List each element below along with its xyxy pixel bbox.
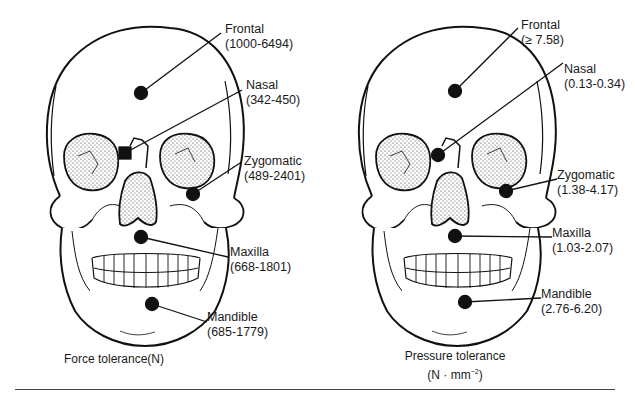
label-range: (342-450): [246, 93, 300, 108]
label-zygomatic-pressure: Zygomatic (1.38-4.17): [557, 168, 618, 198]
skull-diagrams: [0, 0, 635, 396]
skull-left: [47, 27, 244, 346]
label-name: Frontal: [225, 22, 293, 37]
label-name: Maxilla: [230, 245, 291, 260]
label-name: Mandible: [207, 310, 268, 325]
label-range: (685-1779): [207, 325, 268, 340]
label-range: (0.13-0.34): [564, 77, 625, 92]
caption-close: ): [479, 368, 483, 382]
label-range: (2.76-6.20): [541, 302, 602, 317]
label-range: (489-2401): [244, 169, 305, 184]
label-name: Zygomatic: [557, 168, 618, 183]
caption-line1: Pressure tolerance: [390, 349, 520, 364]
label-range: (1.03-2.07): [552, 241, 613, 256]
label-frontal-pressure: Frontal (≥ 7.58): [521, 18, 564, 48]
label-name: Frontal: [521, 18, 564, 33]
label-range: (1.38-4.17): [557, 183, 618, 198]
label-range: (668-1801): [230, 260, 291, 275]
label-name: Zygomatic: [244, 154, 305, 169]
label-range: (≥ 7.58): [521, 33, 564, 48]
caption-line2: (N · mm−2): [390, 364, 520, 383]
caption-pressure: Pressure tolerance (N · mm−2): [390, 349, 520, 383]
label-name: Nasal: [564, 62, 625, 77]
label-zygomatic-force: Zygomatic (489-2401): [244, 154, 305, 184]
label-nasal-force: Nasal (342-450): [246, 78, 300, 108]
caption-exponent: −2: [471, 368, 479, 375]
label-name: Maxilla: [552, 226, 613, 241]
caption-force: Force tolerance(N): [64, 352, 164, 367]
label-name: Mandible: [541, 287, 602, 302]
caption-unit: (N · mm: [427, 368, 470, 382]
label-frontal-force: Frontal (1000-6494): [225, 22, 293, 52]
label-mandible-force: Mandible (685-1779): [207, 310, 268, 340]
label-range: (1000-6494): [225, 37, 293, 52]
label-maxilla-force: Maxilla (668-1801): [230, 245, 291, 275]
label-nasal-pressure: Nasal (0.13-0.34): [564, 62, 625, 92]
label-maxilla-pressure: Maxilla (1.03-2.07): [552, 226, 613, 256]
bottom-divider: [15, 389, 615, 390]
label-mandible-pressure: Mandible (2.76-6.20): [541, 287, 602, 317]
label-name: Nasal: [246, 78, 300, 93]
